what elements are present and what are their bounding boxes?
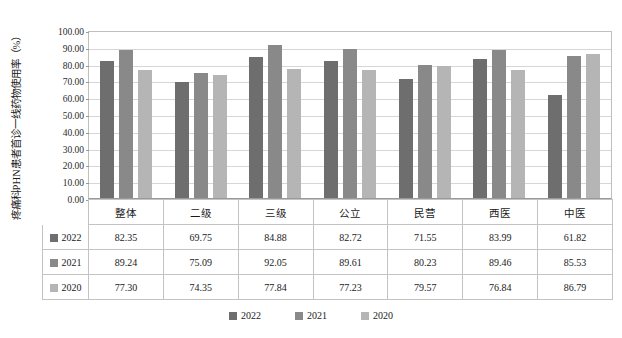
- category-header-cell: 民营: [388, 200, 463, 225]
- data-cell: 92.05: [238, 250, 313, 275]
- bar: [175, 82, 189, 198]
- table-corner-cell: [43, 200, 89, 225]
- data-cell: 85.53: [538, 250, 613, 275]
- category-header-cell: 三级: [238, 200, 313, 225]
- bar: [100, 61, 114, 198]
- table-row: 202282.3569.7584.8882.7271.5583.9961.82: [43, 225, 613, 250]
- data-cell: 84.88: [238, 225, 313, 250]
- table-header-row: 整体二级三级公立民营西医中医: [43, 200, 613, 225]
- legend-item[interactable]: 2020: [361, 310, 393, 321]
- bar: [249, 57, 263, 198]
- table-series-legend-cell: 2021: [43, 250, 89, 275]
- y-axis-tick-label: 50.00: [63, 111, 84, 121]
- plot-wrapper: 100.0090.0080.0070.0060.0050.0040.0030.0…: [88, 31, 612, 199]
- bar-group: [313, 32, 388, 198]
- bar: [437, 66, 451, 198]
- y-axis-tick-label: 20.00: [63, 161, 84, 171]
- data-cell: 76.84: [463, 275, 538, 300]
- bar: [511, 70, 525, 198]
- legend-item[interactable]: 2021: [295, 310, 327, 321]
- bar-group: [387, 32, 462, 198]
- data-cell: 77.30: [89, 275, 164, 300]
- bar: [213, 75, 227, 198]
- legend-label: 2022: [241, 310, 261, 321]
- data-cell: 82.35: [89, 225, 164, 250]
- legend-label: 2020: [373, 310, 393, 321]
- data-cell: 83.99: [463, 225, 538, 250]
- series-name-label: 2020: [62, 282, 82, 293]
- data-cell: 80.23: [388, 250, 463, 275]
- bar: [473, 59, 487, 198]
- chart-legend: 202220212020: [0, 310, 622, 321]
- bar: [194, 73, 208, 198]
- data-cell: 89.24: [89, 250, 164, 275]
- data-cell: 89.46: [463, 250, 538, 275]
- bar-group: [238, 32, 313, 198]
- series-name-label: 2022: [62, 232, 82, 243]
- data-cell: 79.57: [388, 275, 463, 300]
- y-axis-tick-label: 70.00: [63, 77, 84, 87]
- y-axis-tick-label: 40.00: [63, 128, 84, 138]
- bar: [268, 45, 282, 198]
- y-axis-tick-label: 100.00: [58, 27, 84, 37]
- data-cell: 86.79: [538, 275, 613, 300]
- bar: [324, 61, 338, 198]
- y-axis-tick-label: 10.00: [63, 178, 84, 188]
- legend-swatch-icon: [361, 312, 369, 320]
- legend-label: 2021: [307, 310, 327, 321]
- y-axis-tick-label: 30.00: [63, 145, 84, 155]
- data-cell: 69.75: [163, 225, 238, 250]
- category-header-cell: 公立: [313, 200, 388, 225]
- bar: [343, 49, 357, 198]
- bar: [119, 50, 133, 198]
- data-cell: 89.61: [313, 250, 388, 275]
- data-cell: 61.82: [538, 225, 613, 250]
- bar-groups: [89, 32, 611, 198]
- category-header-cell: 中医: [538, 200, 613, 225]
- data-cell: 82.72: [313, 225, 388, 250]
- y-axis-tick-label: 80.00: [63, 61, 84, 71]
- series-swatch-icon: [50, 259, 58, 267]
- data-cell: 71.55: [388, 225, 463, 250]
- bar: [548, 95, 562, 198]
- data-cell: 77.23: [313, 275, 388, 300]
- category-header-cell: 整体: [89, 200, 164, 225]
- bar: [138, 70, 152, 198]
- data-cell: 77.84: [238, 275, 313, 300]
- table-series-legend-cell: 2022: [43, 225, 89, 250]
- data-table: 整体二级三级公立民营西医中医202282.3569.7584.8882.7271…: [42, 199, 613, 300]
- data-cell: 74.35: [163, 275, 238, 300]
- table-row: 202189.2475.0992.0589.6180.2389.4685.53: [43, 250, 613, 275]
- bar: [492, 50, 506, 199]
- bar-group: [164, 32, 239, 198]
- table-series-legend-cell: 2020: [43, 275, 89, 300]
- legend-swatch-icon: [229, 312, 237, 320]
- bar: [362, 70, 376, 198]
- bar: [567, 56, 581, 198]
- bar: [399, 79, 413, 198]
- bar-group: [89, 32, 164, 198]
- y-axis-tick-label: 90.00: [63, 44, 84, 54]
- y-axis-title: 疼痛科PHN患者首诊一线药物使用率（%）: [6, 23, 28, 228]
- series-name-label: 2021: [62, 257, 82, 268]
- bar: [586, 54, 600, 198]
- bar-chart-figure: 疼痛科PHN患者首诊一线药物使用率（%） 100.0090.0080.0070.…: [0, 0, 622, 338]
- legend-swatch-icon: [295, 312, 303, 320]
- series-swatch-icon: [50, 284, 58, 292]
- bar-group: [462, 32, 537, 198]
- bar: [418, 65, 432, 198]
- category-header-cell: 二级: [163, 200, 238, 225]
- bar-group: [536, 32, 611, 198]
- category-header-cell: 西医: [463, 200, 538, 225]
- y-axis-tick-label: 60.00: [63, 94, 84, 104]
- legend-item[interactable]: 2022: [229, 310, 261, 321]
- series-swatch-icon: [50, 234, 58, 242]
- data-cell: 75.09: [163, 250, 238, 275]
- table-row: 202077.3074.3577.8477.2379.5776.8486.79: [43, 275, 613, 300]
- bar: [287, 69, 301, 198]
